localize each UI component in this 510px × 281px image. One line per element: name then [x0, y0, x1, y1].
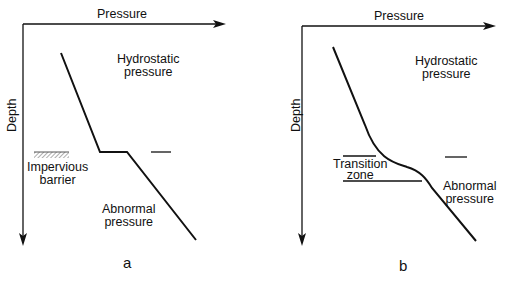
panel-b-x-axis-label: Pressure [374, 10, 424, 23]
pressure-depth-diagram [0, 0, 510, 281]
panel-a-y-axis-label: Depth [5, 99, 19, 132]
panel-a-caption: a [123, 254, 131, 271]
panel-b-hydrostatic-label: Hydrostatic pressure [415, 55, 478, 81]
panel-a-x-axis-label: Pressure [97, 8, 147, 21]
panel-a-abnormal-label: Abnormal pressure [102, 203, 156, 229]
panel-b-caption: b [399, 257, 407, 274]
panel-b-abnormal-label: Abnormal pressure [443, 180, 497, 206]
panel-a-hydrostatic-label: Hydrostatic pressure [117, 53, 180, 79]
impervious-barrier-label: Impervious barrier [27, 161, 88, 187]
panel-b-y-axis-label: Depth [289, 99, 303, 132]
transition-zone-label: Transition zone [333, 159, 387, 181]
impervious-barrier-hatch [34, 152, 69, 158]
